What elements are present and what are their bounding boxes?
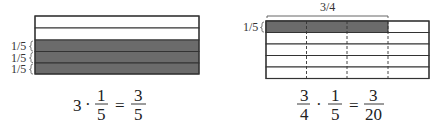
left-row-3-shaded [35,40,199,52]
right-row-4 [266,56,429,68]
fraction-multiplication-diagram: 1/5 1/5 1/5 3 · 1 5 = 3 5 3/4 1/ [0,0,438,128]
brace-icon [30,64,34,74]
result-denominator: 20 [365,105,382,124]
frac2-denominator: 5 [331,105,340,124]
left-row-label-3: 1/5 [11,62,26,76]
top-brace-label: 3/4 [320,0,335,14]
left-row-1 [35,16,199,28]
multiply-dot: · [316,95,322,114]
whole-number: 3 [73,96,82,115]
right-row-2 [266,33,429,45]
equals-sign: = [115,96,125,115]
left-area-model: 1/5 1/5 1/5 [11,16,199,76]
equals-sign: = [349,96,359,115]
frac1-denominator: 5 [97,105,106,124]
right-shaded-region [266,21,388,33]
frac1-denominator: 4 [300,105,309,124]
brace-icon [30,41,34,51]
brace-icon [261,22,265,32]
right-equation: 3 4 · 1 5 = 3 20 [297,86,384,124]
brace-icon [267,16,388,18]
left-row-5-shaded [35,63,199,74]
right-row-5 [266,67,429,79]
result-denominator: 5 [134,105,143,124]
right-row-label: 1/5 [243,20,258,34]
brace-icon [30,53,34,63]
right-row-3 [266,44,429,56]
frac2-numerator: 1 [331,86,340,105]
result-numerator: 3 [369,86,378,105]
left-equation: 3 · 1 5 = 3 5 [73,86,146,124]
left-row-4-shaded [35,52,199,64]
frac1-numerator: 1 [97,86,106,105]
right-area-model: 3/4 1/5 [243,0,429,79]
result-numerator: 3 [134,86,143,105]
frac1-numerator: 3 [300,86,309,105]
left-row-2 [35,28,199,40]
multiply-dot: · [85,95,91,114]
